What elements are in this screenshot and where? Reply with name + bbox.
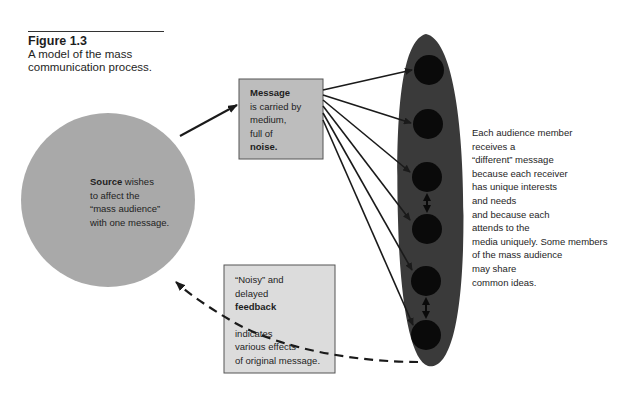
caption-line: communication process. [28, 61, 178, 74]
figure-number: Figure 1.3 [28, 34, 87, 48]
audience-member-5 [411, 266, 441, 296]
audience-member-6 [411, 320, 441, 350]
audience-member-4 [412, 214, 442, 244]
caption-line: A model of the mass [28, 48, 178, 61]
noise-label: noise. [250, 141, 277, 152]
audience-member-3 [412, 162, 442, 192]
source-label: Source wishes to affect the “mass audien… [90, 175, 200, 229]
message-title: Message [250, 87, 290, 98]
feedback-title: feedback [235, 301, 276, 312]
figure-caption: A model of the mass communication proces… [28, 48, 178, 74]
message-label: Message is carried by medium, full of no… [250, 86, 322, 154]
audience-member-1 [414, 55, 444, 85]
audience-member-2 [413, 109, 443, 139]
feedback-label: “Noisy” and delayed feedback indicates v… [235, 273, 340, 368]
audience-description: Each audience member receives a “differe… [472, 126, 631, 289]
source-to-message-arrow [180, 105, 237, 136]
source-title: Source [90, 176, 122, 187]
caption-rule [28, 31, 164, 32]
